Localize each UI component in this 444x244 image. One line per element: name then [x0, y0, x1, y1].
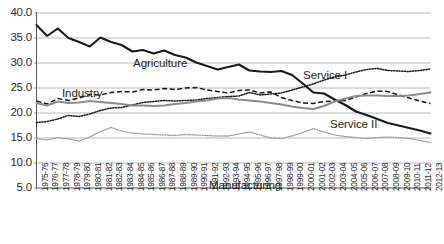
x-axis-label: 2001-02: [317, 163, 327, 191]
x-axis-label: 1989-90: [189, 163, 199, 191]
x-axis-label: 2007-08: [380, 163, 390, 191]
y-axis-label: 30.0: [0, 56, 32, 68]
series-annotation-service-ii: Service II: [330, 117, 377, 130]
y-axis-label: 20.0: [0, 106, 32, 118]
series-annotation-service-i: Service I: [303, 68, 347, 81]
x-axis-label: 1982-83: [114, 163, 124, 191]
x-axis-label: 2008-09: [391, 163, 401, 191]
y-axis-label: 35.0: [0, 31, 32, 43]
x-axis-label: 2010-11: [412, 163, 422, 191]
x-axis-label: 1990-91: [199, 163, 209, 191]
y-axis-label: 10.0: [0, 156, 32, 168]
x-axis-label: 1984-85: [136, 163, 146, 191]
x-axis-label: 2006-07: [370, 163, 380, 191]
x-axis-label: 2003-04: [338, 163, 348, 191]
x-axis-label: 2005-06: [359, 163, 369, 191]
x-axis-label: 1998-99: [285, 163, 295, 191]
x-axis-label: 1999-00: [295, 163, 305, 191]
x-axis-label: 1981-82: [104, 163, 114, 191]
x-axis-label: 1987-88: [167, 163, 177, 191]
x-axis-label: 1976-77: [50, 163, 60, 191]
x-axis-label: 2011-12: [423, 163, 433, 191]
x-axis-label: 1986-87: [157, 163, 167, 191]
x-axis-label: 1980-81: [93, 163, 103, 191]
y-axis-label: 40.0: [0, 6, 32, 18]
y-axis-label: 25.0: [0, 81, 32, 93]
x-axis-label: 2000-01: [306, 163, 316, 191]
x-axis-label: 2004-05: [349, 163, 359, 191]
x-axis-label: 1983-84: [125, 163, 135, 191]
x-axis-label: 2009-10: [402, 163, 412, 191]
y-axis-label: 5.0: [0, 181, 32, 193]
x-axis-label: 2002-03: [327, 163, 337, 191]
series-annotation-manufacturing: Manufacturing: [209, 178, 281, 191]
series-annotation-agriculture: Agriculture: [133, 56, 187, 69]
x-axis-label: 1988-89: [178, 163, 188, 191]
x-axis-label: 1977-78: [61, 163, 71, 191]
y-axis-label: 15.0: [0, 131, 32, 143]
x-axis-label: 1978-79: [72, 163, 82, 191]
x-axis-label: 1979-80: [82, 163, 92, 191]
x-axis-label: 1985-86: [146, 163, 156, 191]
x-axis-label: 2012-13: [434, 163, 444, 191]
x-axis-label: 1975-76: [40, 163, 50, 191]
series-annotation-industry: Industry: [62, 86, 102, 99]
